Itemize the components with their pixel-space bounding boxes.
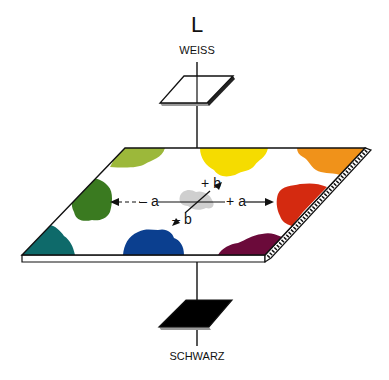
white-plane [160,76,235,106]
positive-b-label: + b [201,175,221,191]
l-axis-label: L [191,12,203,37]
schwarz-label: SCHWARZ [169,350,224,362]
positive-a-label: + a [226,193,246,209]
color-patch-green [72,178,112,220]
weiss-label: WEISS [179,44,214,56]
color-plane: – a + a + b – b [20,148,371,262]
negative-b-label: – b [172,211,192,227]
negative-a-label: – a [139,193,159,209]
black-plane [159,300,232,330]
lab-color-space-diagram: – a + a + b – b L WEISS SCHWARZ [0,0,389,380]
